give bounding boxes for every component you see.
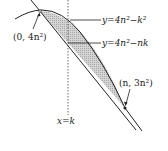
label-parabola: y=4n²−k² bbox=[101, 15, 147, 25]
label-point-bottom: (n, 3n²) bbox=[119, 78, 153, 88]
label-line: y=4n²−nk bbox=[101, 38, 149, 48]
arrowhead-bottom-icon bbox=[124, 102, 128, 106]
label-vline: x=k bbox=[57, 116, 75, 126]
label-point-top: (0, 4n²) bbox=[13, 32, 47, 42]
arrow-bottom bbox=[126, 89, 130, 104]
shaded-region bbox=[40, 11, 125, 108]
point-bottom-marker bbox=[124, 107, 127, 110]
parabola-curve bbox=[15, 10, 142, 131]
arrowhead-top-icon bbox=[37, 13, 41, 17]
point-top-marker bbox=[39, 10, 42, 13]
area-diagram: y=4n²−k² y=4n²−nk (0, 4n²) (n, 3n²) x=k bbox=[0, 0, 168, 151]
